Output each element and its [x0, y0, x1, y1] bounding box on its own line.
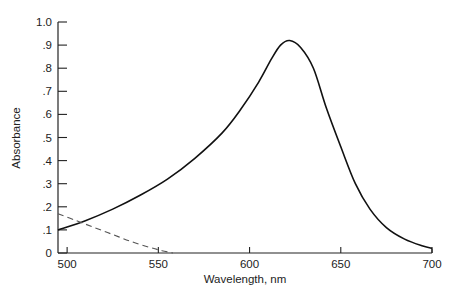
x-tick-label: 650	[331, 258, 350, 270]
y-tick-label: .2	[42, 201, 52, 213]
plot-area	[58, 40, 432, 253]
y-tick-label: .8	[42, 62, 52, 74]
y-tick-label: .1	[42, 224, 52, 236]
x-tick-label: 600	[240, 258, 259, 270]
x-axis-title: Wavelength, nm	[204, 273, 287, 285]
y-axis-title: Absorbance	[10, 107, 22, 168]
y-tick-label: .6	[42, 108, 52, 120]
y-tick-label: 0	[46, 247, 52, 259]
x-tick-label: 500	[58, 258, 77, 270]
absorbance-dashed-curve	[58, 214, 173, 253]
y-tick-label: 1.0	[36, 16, 52, 28]
y-tick-label: .4	[42, 155, 52, 167]
y-tick-label: .5	[42, 132, 52, 144]
x-tick-label: 700	[422, 258, 441, 270]
axes: 0.1.2.3.4.5.6.7.8.91.0500550600650700	[36, 16, 442, 270]
absorbance-chart: 0.1.2.3.4.5.6.7.8.91.0500550600650700 Wa…	[0, 0, 467, 296]
y-tick-label: .3	[42, 178, 52, 190]
absorbance-solid-curve	[58, 40, 432, 248]
y-tick-label: .9	[42, 39, 52, 51]
x-tick-label: 550	[149, 258, 168, 270]
y-tick-label: .7	[42, 85, 52, 97]
